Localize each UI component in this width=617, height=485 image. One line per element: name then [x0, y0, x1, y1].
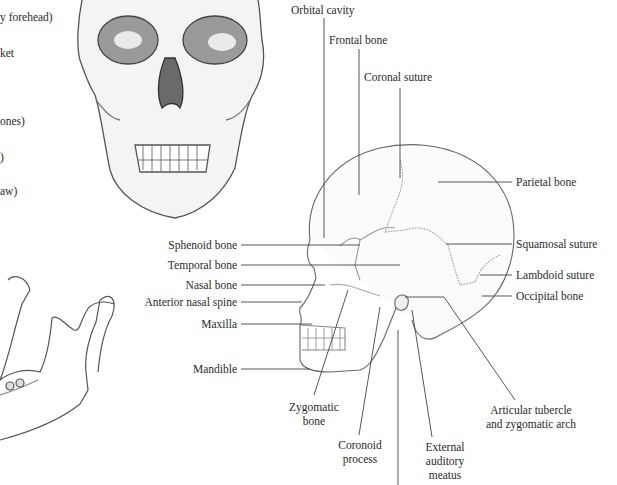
coronoid-leader — [359, 307, 380, 435]
label-maxilla: Maxilla — [201, 317, 237, 331]
partial-label-forehead: y forehead) — [0, 10, 53, 24]
label-mandible: Mandible — [193, 362, 237, 376]
partial-label-socket: ket — [0, 46, 14, 60]
label-squamosal-suture: Squamosal suture — [516, 237, 597, 251]
label-external-auditory-meatus: External auditory meatus — [420, 440, 470, 482]
partial-label-paren: ) — [0, 150, 4, 164]
label-coronoid-process: Coronoid process — [330, 438, 390, 466]
mandible-drawing — [0, 277, 114, 440]
partial-label-jaw: aw) — [0, 184, 17, 198]
label-occipital-bone: Occipital bone — [516, 289, 583, 303]
frontal-skull-drawing — [78, 0, 264, 218]
articular-leader-d — [444, 297, 515, 400]
partial-label-bones: ones) — [0, 114, 25, 128]
label-frontal-bone: Frontal bone — [329, 33, 387, 47]
label-temporal-bone: Temporal bone — [168, 258, 237, 272]
label-lambdoid-suture: Lambdoid suture — [516, 268, 594, 282]
zygomatic-leader — [314, 290, 348, 395]
label-sphenoid-bone: Sphenoid bone — [168, 238, 237, 252]
lateral-skull-drawing — [300, 145, 514, 372]
label-zygomatic-bone: Zygomatic bone — [282, 400, 346, 428]
label-parietal-bone: Parietal bone — [516, 175, 576, 189]
label-anterior-nasal-spine: Anterior nasal spine — [144, 295, 237, 309]
label-nasal-bone: Nasal bone — [186, 278, 237, 292]
label-coronal-suture: Coronal suture — [364, 70, 432, 84]
label-articular-tubercle: Articular tubercle and zygomatic arch — [476, 403, 586, 431]
label-orbital-cavity: Orbital cavity — [291, 3, 355, 17]
